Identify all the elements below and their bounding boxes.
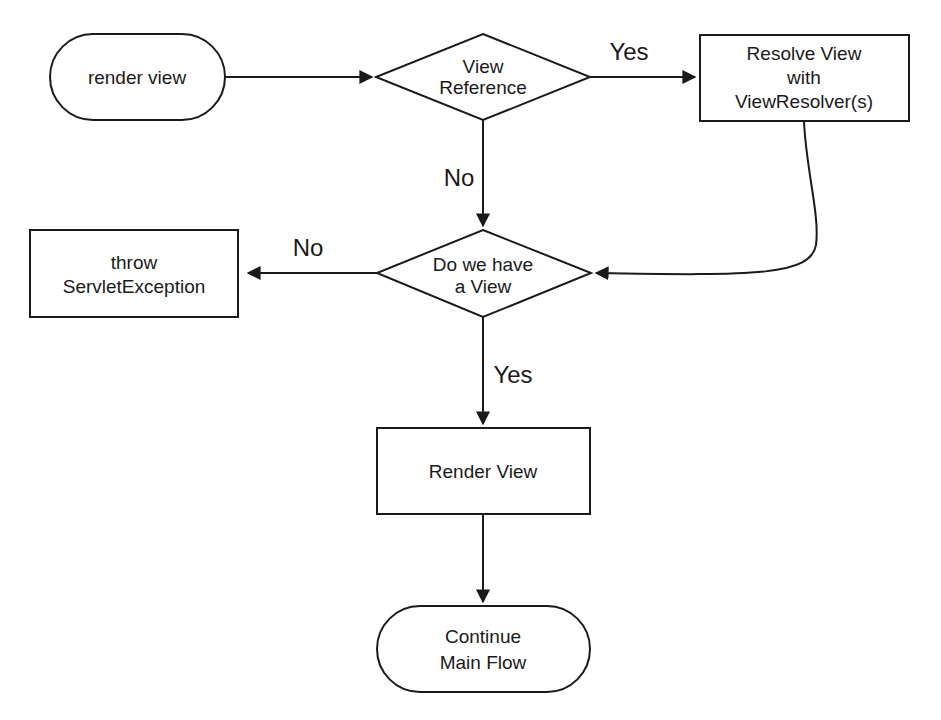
- edge-label-yes: Yes: [609, 38, 648, 65]
- node-label: Reference: [439, 77, 527, 98]
- edge-have-view-no: No: [248, 234, 377, 273]
- node-continue-main-flow: Continue Main Flow: [377, 606, 590, 692]
- node-label: with: [786, 67, 821, 88]
- node-throw-servlet-exception: throw ServletException: [30, 230, 238, 317]
- node-label: Resolve View: [747, 43, 862, 64]
- node-view-reference-decision: View Reference: [376, 34, 590, 120]
- flowchart-canvas: Yes No No Yes render view View Reference…: [0, 0, 941, 720]
- node-have-view-decision: Do we have a View: [377, 230, 591, 317]
- node-label: a View: [455, 276, 512, 297]
- node-render-view: Render View: [377, 428, 590, 514]
- node-label: View: [463, 56, 504, 77]
- node-label: Render View: [429, 461, 538, 482]
- node-label: ServletException: [63, 276, 206, 297]
- edge-view-reference-no: No: [444, 120, 483, 226]
- edge-view-reference-yes: Yes: [590, 38, 695, 77]
- edge-label-no: No: [444, 164, 475, 191]
- node-label: Do we have: [433, 254, 533, 275]
- edge-label-no: No: [293, 234, 324, 261]
- node-label: render view: [88, 67, 186, 88]
- edge-label-yes: Yes: [493, 361, 532, 388]
- node-label: throw: [111, 252, 158, 273]
- node-label: Main Flow: [440, 652, 527, 673]
- edge-have-view-yes: Yes: [483, 317, 533, 424]
- node-resolve-view: Resolve View with ViewResolver(s): [700, 35, 909, 121]
- node-label: Continue: [445, 626, 521, 647]
- node-label: ViewResolver(s): [735, 91, 873, 112]
- node-render-view-start: render view: [50, 34, 225, 120]
- edge-resolve-to-have-view: [596, 121, 817, 274]
